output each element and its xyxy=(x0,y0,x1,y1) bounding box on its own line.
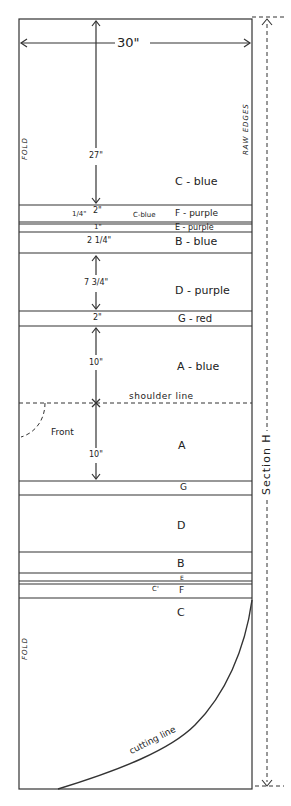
fold-label-top: FOLD xyxy=(22,137,29,160)
width-dimension: 30" xyxy=(117,36,140,49)
band-a-blue: A - blue xyxy=(177,361,219,372)
band-c-blue: C - blue xyxy=(175,176,217,187)
fabric-frame xyxy=(19,19,252,789)
dimension-f: 2" xyxy=(93,207,102,215)
section-h-label: Section H xyxy=(261,431,272,497)
dimension-a-upper: 10" xyxy=(89,359,103,367)
band-g: G xyxy=(180,483,187,492)
fold-label-bottom: FOLD xyxy=(22,637,29,660)
c-prime-note: C' xyxy=(152,586,159,593)
front-label: Front xyxy=(51,428,74,437)
dimension-g: 2" xyxy=(93,314,102,322)
band-f-purple: F - purple xyxy=(175,209,218,218)
dimension-c: 27" xyxy=(89,152,103,160)
raw-edges-label: RAW EDGES xyxy=(243,103,250,155)
band-d: D xyxy=(177,520,185,531)
dimension-b: 2 1/4" xyxy=(87,237,111,245)
shoulder-line-label: shoulder line xyxy=(129,392,194,401)
band-e: E xyxy=(180,575,184,581)
dimension-a-lower: 10" xyxy=(89,451,103,459)
band-b: B xyxy=(177,558,185,569)
band-g-red: G - red xyxy=(178,314,212,324)
band-f: F xyxy=(179,586,184,595)
band-e-purple: E - purple xyxy=(175,224,214,232)
dimension-e: 1" xyxy=(94,224,102,231)
band-a: A xyxy=(178,440,186,451)
band-b-blue: B - blue xyxy=(175,236,217,247)
c-blue-note: C-blue xyxy=(133,212,156,219)
dimension-d: 7 3/4" xyxy=(84,279,108,287)
band-d-purple: D - purple xyxy=(175,285,230,296)
band-c: C xyxy=(177,607,185,618)
quarter-inch-note: 1/4" xyxy=(72,211,87,218)
